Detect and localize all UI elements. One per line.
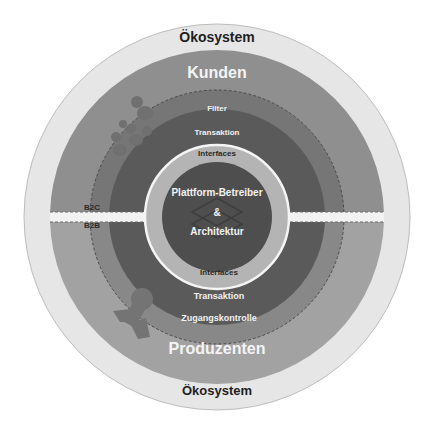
access-control-label: Zugangskontrolle	[181, 313, 257, 323]
producers-label: Produzenten	[169, 340, 266, 358]
b2c-label: B2C	[84, 203, 100, 212]
core-label-line3: Architektur	[190, 226, 243, 237]
interfaces-label-bottom: Interfaces	[200, 268, 238, 277]
transaction-label-bottom: Transaktion	[194, 291, 245, 301]
ecosystem-label-top: Ökosystem	[179, 29, 254, 45]
transaction-label-top: Transaktion	[195, 128, 240, 137]
interfaces-label-top: Interfaces	[198, 149, 236, 158]
filter-label: Filter	[207, 104, 227, 113]
core-label-line1: Plattform-Betreiber	[171, 187, 262, 198]
core-label-line2: &	[213, 207, 220, 218]
b2b-label: B2B	[84, 221, 100, 230]
ecosystem-label-bottom: Ökosystem	[182, 383, 252, 398]
customers-label: Kunden	[187, 64, 247, 82]
